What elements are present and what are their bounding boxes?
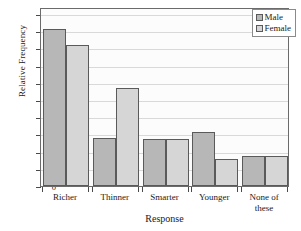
x-axis-tick-label: None of these [234,192,294,213]
bar-chart-figure: Relative Frequency 00.050.100.150.200.25… [0,0,301,231]
bar-male-4 [242,156,265,186]
legend-item-male: Male [256,12,292,23]
bar-female-0 [66,45,89,186]
bar-male-3 [192,132,215,186]
bar-male-0 [43,29,66,186]
legend-swatch-icon [256,14,263,21]
legend: MaleFemale [252,9,297,37]
bar-male-1 [93,138,116,186]
bar-female-2 [166,139,189,187]
legend-item-female: Female [256,23,292,34]
x-axis-title: Response [40,213,289,224]
bar-male-2 [143,139,166,187]
legend-label: Female [265,24,292,33]
legend-swatch-icon [256,25,263,32]
legend-label: Male [265,13,284,22]
bar-female-4 [265,156,288,186]
y-axis-tick-mark [36,187,41,188]
bar-female-1 [116,88,139,186]
bar-female-3 [215,159,238,186]
